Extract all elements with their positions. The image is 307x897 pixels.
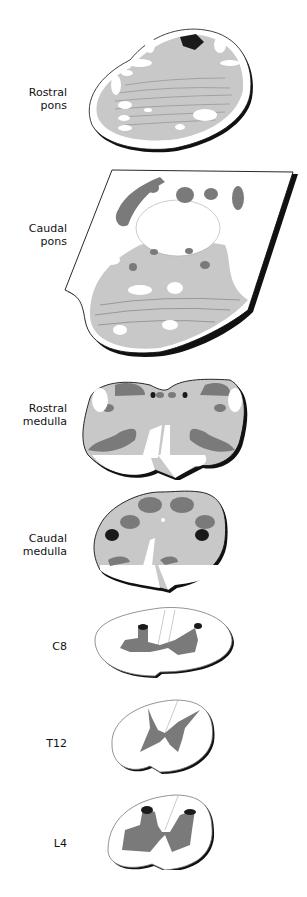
c8-section [0, 605, 307, 685]
caudal-pons-section [0, 165, 307, 365]
rostral-pons-section [0, 20, 307, 160]
rostral-medulla-section [0, 370, 307, 480]
t12-section [0, 695, 307, 780]
l4-section [0, 790, 307, 870]
caudal-medulla-section [0, 485, 307, 600]
